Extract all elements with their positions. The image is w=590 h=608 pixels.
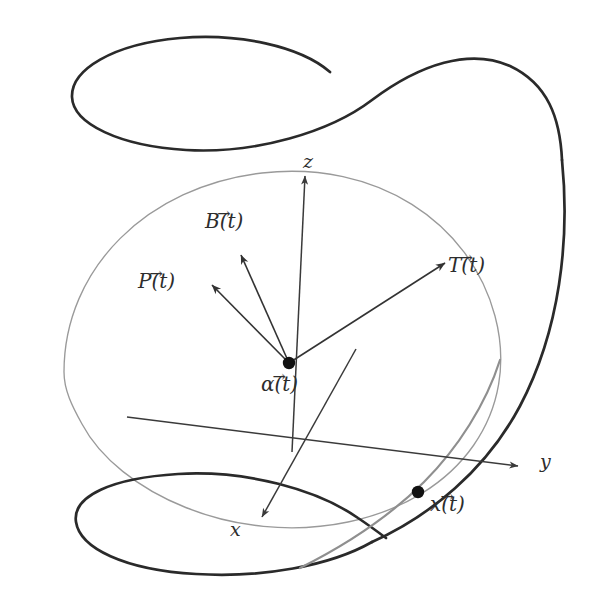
- point-label-x-of-t: → x(t): [430, 494, 465, 514]
- vector-accent-B: →: [217, 206, 230, 222]
- figure-canvas: z y x → α(t) → x(t) → T(t) → B(t) → P(t): [0, 0, 590, 608]
- vector-T: [289, 263, 445, 363]
- helix-right-arc: [372, 160, 565, 542]
- vector-P: [212, 285, 289, 363]
- vector-accent-P: →: [150, 266, 163, 282]
- axis-label-x: x: [230, 520, 241, 539]
- x-point-curve: [300, 360, 500, 568]
- vector-accent-alpha: →: [273, 369, 286, 385]
- vector-accent-T: →: [460, 250, 473, 266]
- axis-label-z: z: [303, 152, 313, 171]
- vector-label-P: → P(t): [138, 271, 175, 291]
- point-x-of-t: [412, 486, 424, 498]
- axis-z: [292, 176, 305, 452]
- vector-label-T: → T(t): [448, 255, 485, 275]
- vector-label-B: → B(t): [205, 211, 243, 231]
- axis-label-y: y: [540, 452, 551, 471]
- vector-accent-x: →: [440, 489, 453, 505]
- helix-upper-loop: [72, 37, 562, 160]
- vector-B: [241, 255, 289, 363]
- point-label-alpha: → α(t): [261, 374, 298, 394]
- diagram-svg: [0, 0, 590, 608]
